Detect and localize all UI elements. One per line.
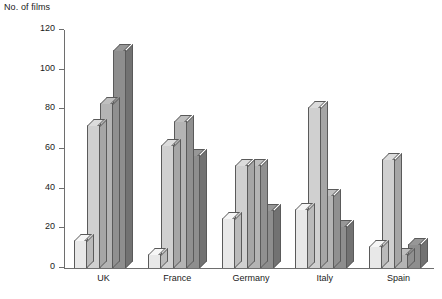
bar-side-face [321, 101, 328, 268]
x-axis-category-label: France [148, 273, 207, 283]
y-axis-tick-label: 0 [50, 261, 55, 271]
y-axis-tick: 40 [59, 188, 64, 189]
y-axis-tick: 20 [59, 227, 64, 228]
bar-group: Italy [295, 30, 354, 268]
bar-side-face [248, 159, 255, 268]
bar-side-face [100, 119, 107, 268]
y-axis-tick-label: 40 [45, 182, 55, 192]
bar-side-face [274, 204, 281, 268]
x-axis-line [64, 268, 434, 269]
bar-side-face [347, 220, 354, 268]
y-axis-tick: 80 [59, 108, 64, 109]
bar-group: Spain [369, 30, 428, 268]
bar-side-face [126, 44, 133, 268]
x-axis-category-label: Italy [295, 273, 354, 283]
bar-side-face [200, 149, 207, 268]
bar-side-face [187, 115, 194, 268]
bar [148, 254, 161, 268]
y-axis-tick-label: 20 [45, 221, 55, 231]
bar [222, 218, 235, 268]
bar-side-face [395, 153, 402, 268]
bar-side-face [308, 203, 315, 269]
bar-side-face [334, 189, 341, 268]
bar [74, 240, 87, 268]
bar-group: UK [74, 30, 133, 268]
y-axis-tick: 0 [59, 267, 64, 268]
bar-group: France [148, 30, 207, 268]
y-axis-tick: 120 [59, 29, 64, 30]
y-axis-tick-label: 120 [40, 23, 55, 33]
x-axis-category-label: Germany [222, 273, 281, 283]
y-axis-tick-label: 100 [40, 63, 55, 73]
bar [295, 209, 308, 269]
y-axis-tick: 60 [59, 148, 64, 149]
bar-side-face [261, 159, 268, 268]
x-axis-category-label: Spain [369, 273, 428, 283]
y-axis-tick: 100 [59, 69, 64, 70]
x-axis-category-label: UK [74, 273, 133, 283]
y-axis-title: No. of films [4, 2, 50, 12]
bar [369, 246, 382, 268]
bar-side-face [421, 238, 428, 268]
bar-side-face [174, 139, 181, 268]
y-axis-line [64, 30, 65, 269]
y-axis-tick-label: 60 [45, 142, 55, 152]
bar-group: Germany [222, 30, 281, 268]
bar-chart: No. of films 020406080100120 UKFranceGer… [0, 0, 442, 299]
bar-side-face [235, 212, 242, 268]
bar-side-face [113, 97, 120, 268]
y-axis-tick-label: 80 [45, 102, 55, 112]
plot-area: 020406080100120 UKFranceGermanyItalySpai… [64, 30, 434, 269]
